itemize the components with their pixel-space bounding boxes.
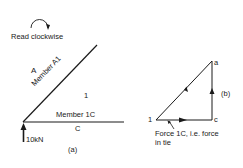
caption-a: (a) (68, 146, 77, 154)
space-c-label: C (75, 125, 80, 133)
annotation-line-1: Force 1C, i.e. force (155, 130, 219, 138)
clockwise-arrow-icon (31, 20, 50, 31)
read-clockwise-label: Read clockwise (11, 33, 63, 41)
reaction-10kn-label: 10kN (26, 136, 44, 144)
point-c-label: c (214, 116, 218, 124)
member-1c-label: Member 1C (56, 111, 95, 119)
space-1-label: 1 (84, 92, 88, 100)
caption-b: (b) (221, 90, 230, 98)
annotation-line-2: in tie (155, 139, 171, 147)
point-a-label: a (214, 59, 218, 67)
annotation-leader-arrow-icon (168, 121, 175, 130)
point-1-label: 1 (148, 116, 152, 124)
force-triangle (156, 61, 215, 123)
